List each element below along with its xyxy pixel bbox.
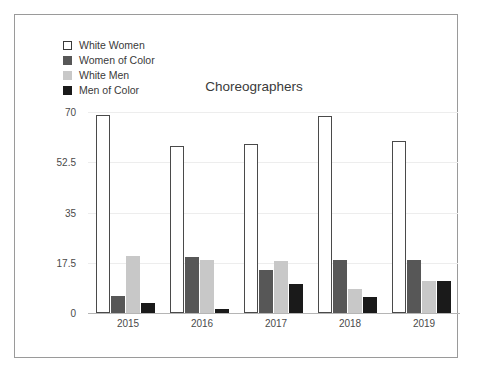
x-axis-tick-label: 2018 [318,318,382,329]
bar-group: 2016 [170,112,234,313]
legend-item: White Women [63,39,155,52]
bar-group: 2017 [244,112,308,313]
bar [126,256,140,313]
bar [407,260,421,313]
bar [318,116,332,313]
bar [437,281,451,313]
legend-swatch-icon [63,56,72,65]
bar [96,115,110,313]
bar-group: 2015 [96,112,160,313]
bar [111,296,125,313]
legend-item: Women of Color [63,54,155,67]
bar [244,144,258,313]
bar [170,146,184,313]
legend-label: White Women [79,39,145,52]
chart-frame: White WomenWomen of ColorWhite MenMen of… [14,14,458,358]
x-axis-tick-label: 2015 [96,318,160,329]
bar [185,257,199,313]
y-axis-tick-label: 17.5 [36,257,76,268]
bar [333,260,347,313]
bar [392,141,406,313]
x-axis-tick-label: 2016 [170,318,234,329]
x-axis-tick-label: 2017 [244,318,308,329]
bar [274,261,288,313]
bar [422,281,436,313]
x-axis-line [88,313,460,314]
chart-title: Choreographers [15,79,478,94]
bar-group: 2018 [318,112,382,313]
y-axis-tick-label: 35 [36,207,76,218]
legend-label: Women of Color [79,54,155,67]
plot-area: 017.53552.57020152016201720182019 [88,112,458,313]
y-axis-tick-label: 0 [36,308,76,319]
bar [259,270,273,313]
bar [363,297,377,313]
y-axis-tick-label: 70 [36,107,76,118]
bar [289,284,303,313]
bar-group: 2019 [392,112,456,313]
bar [348,289,362,313]
y-axis-tick-label: 52.5 [36,157,76,168]
bar [200,260,214,313]
x-axis-tick-label: 2019 [392,318,456,329]
bar [141,303,155,313]
legend-swatch-icon [63,41,72,50]
